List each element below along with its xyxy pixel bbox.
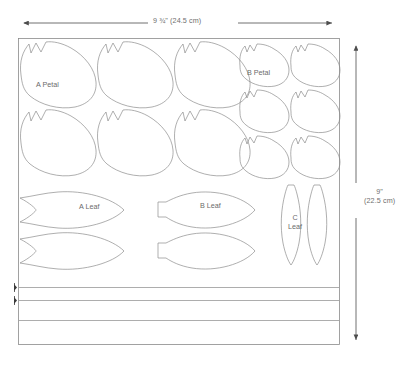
a-petal-group [20, 42, 250, 176]
b-petal-group [240, 44, 340, 179]
height-dimension-inches: 9" [364, 187, 395, 196]
b-leaf-label: B Leaf [200, 201, 221, 210]
a-leaf-group [20, 192, 124, 270]
diagram-vector-layer [0, 0, 400, 368]
b-petal-label: B Petal [247, 68, 270, 77]
strip-tick-markers [14, 283, 17, 305]
c-leaf-label-line2: Leaf [284, 222, 306, 231]
width-dimension-label: 9 ¾" (24.5 cm) [150, 16, 204, 25]
pattern-diagram: 9 ¾" (24.5 cm) 9" (22.5 cm) A Petal B Pe… [0, 0, 400, 368]
c-leaf-label: C Leaf [284, 213, 306, 232]
a-leaf-label: A Leaf [79, 202, 99, 211]
a-petal-label: A Petal [36, 80, 59, 89]
c-leaf-label-line1: C [284, 213, 306, 222]
height-dimension-cm: (22.5 cm) [364, 196, 395, 205]
height-dimension-label: 9" (22.5 cm) [362, 186, 397, 206]
bottom-strip-lines [19, 288, 339, 321]
